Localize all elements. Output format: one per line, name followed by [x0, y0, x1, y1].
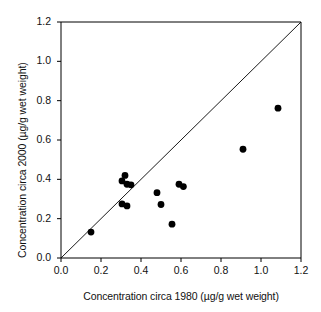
y-axis-ticks — [57, 22, 61, 258]
data-point — [154, 189, 161, 196]
data-point — [124, 202, 131, 209]
data-point — [128, 181, 135, 188]
scatter-chart-figure: Concentration circa 2000 (µg/g wet weigh… — [0, 0, 321, 312]
data-point — [88, 229, 95, 236]
data-points-group — [88, 105, 282, 236]
data-point — [275, 105, 282, 112]
x-tick-label: 1.0 — [246, 264, 276, 276]
y-tick-label: 0.4 — [25, 172, 51, 184]
data-point — [180, 183, 187, 190]
x-tick-label: 1.2 — [286, 264, 316, 276]
y-tick-label: 0.2 — [25, 212, 51, 224]
x-tick-label: 0.2 — [86, 264, 116, 276]
y-tick-label: 0.6 — [25, 133, 51, 145]
one-to-one-reference-line — [61, 22, 301, 258]
x-axis-ticks — [61, 258, 301, 262]
data-point — [240, 146, 247, 153]
one-to-one-line — [61, 22, 301, 258]
data-point — [169, 221, 176, 228]
x-tick-label: 0.6 — [166, 264, 196, 276]
y-tick-label: 1.2 — [25, 15, 51, 27]
data-point — [158, 201, 165, 208]
y-tick-label: 1.0 — [25, 54, 51, 66]
data-point — [122, 172, 129, 179]
y-tick-label: 0.8 — [25, 94, 51, 106]
y-tick-label: 0.0 — [25, 251, 51, 263]
x-tick-label: 0.8 — [206, 264, 236, 276]
x-tick-label: 0.0 — [46, 264, 76, 276]
x-tick-label: 0.4 — [126, 264, 156, 276]
